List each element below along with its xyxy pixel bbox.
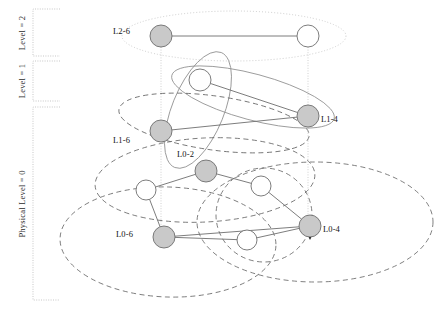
node-L0-6[interactable] [153,226,175,248]
axis-label-level-0: Physical Level = 0 [17,170,27,237]
edge-n-l0-w2-n-l0-4 [269,192,302,219]
edge-n-l1-6-n-l1-4 [172,117,297,130]
node-n-l0-w1[interactable] [136,180,156,200]
cluster-ellipses [58,11,433,301]
edges [150,36,302,240]
bracket-level-2 [33,9,60,56]
node-L1-6[interactable] [150,120,172,142]
edge-n-l0-6-n-l0-4 [175,227,299,236]
node-label-L1-4: L1-4 [321,114,338,124]
node-label-L1-6: L1-6 [113,135,130,145]
edge-n-l0-2-n-l0-w2 [217,174,252,183]
edge-n-l1-w-n-l1-4 [210,83,297,112]
node-L1-4[interactable] [297,105,319,127]
node-L0-4[interactable] [299,215,321,237]
axis-label-level-1: Level = 1 [17,64,27,98]
edge-n-l0-w1-n-l0-6 [150,199,160,226]
node-n-l1-w[interactable] [189,69,211,91]
node-L2-6[interactable] [150,25,172,47]
cluster-level1-c [115,83,313,163]
node-n-l0-w3[interactable] [237,230,257,250]
axis-label-level-2: Level = 2 [17,15,27,49]
bracket-level-1 [33,61,60,101]
node-n-l0-w2[interactable] [251,176,271,196]
node-label-L0-4: L0-4 [323,224,340,234]
diagram-canvas: Level = 2Level = 1Physical Level = 0 L2-… [0,0,446,311]
level-brackets [33,9,60,300]
node-label-L0-2: L0-2 [177,149,194,159]
network-diagram-svg [0,0,446,311]
node-label-L2-6: L2-6 [113,26,130,36]
edge-n-l0-2-n-l0-w1 [156,174,196,187]
node-label-L0-6: L0-6 [116,229,133,239]
bracket-level-0 [33,107,60,300]
edge-n-l0-6-n-l0-w3 [175,237,237,239]
node-L0-2[interactable] [195,160,217,182]
cluster-level1-b [151,43,246,177]
node-n-l2-r[interactable] [297,25,319,47]
